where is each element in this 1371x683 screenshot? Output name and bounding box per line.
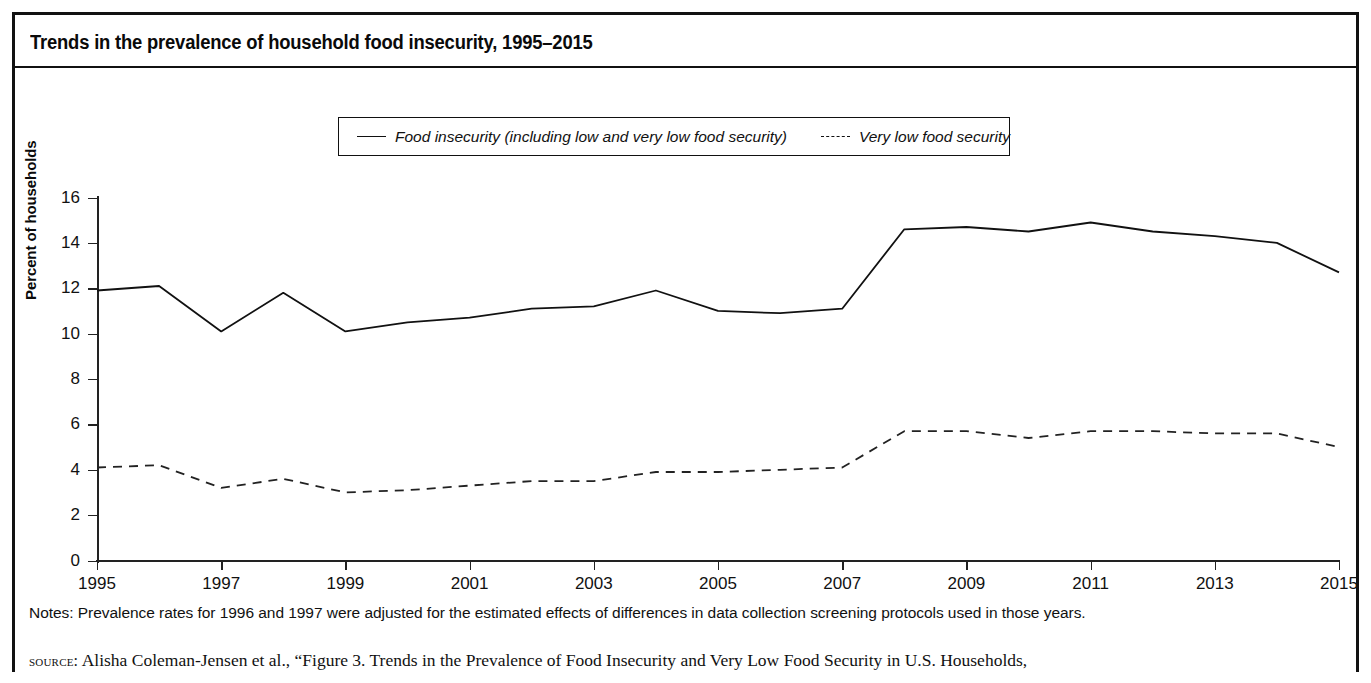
source-prefix: source: bbox=[29, 652, 78, 669]
figure-container: Trends in the prevalence of household fo… bbox=[0, 0, 1371, 683]
source-text: Alisha Coleman-Jensen et al., “Figure 3.… bbox=[82, 650, 1028, 670]
series-line-food-insecurity bbox=[97, 223, 1339, 332]
chart-plot-area bbox=[0, 0, 1371, 683]
figure-notes: Notes: Prevalence rates for 1996 and 199… bbox=[29, 604, 1086, 622]
figure-source: source: Alisha Coleman-Jensen et al., “F… bbox=[29, 650, 1027, 671]
series-line-very-low-food-security bbox=[97, 431, 1339, 492]
